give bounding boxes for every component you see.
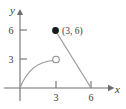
arc-curve <box>20 61 54 89</box>
x-tick-label-6: 6 <box>89 92 94 103</box>
point-coordinate-label: (3, 6) <box>62 26 83 37</box>
y-axis-arrow-icon <box>17 9 23 15</box>
y-tick-label-3: 3 <box>9 54 14 65</box>
x-tick-label-3: 3 <box>54 92 59 103</box>
y-tick-label-6: 6 <box>9 25 14 36</box>
closed-point-marker <box>52 27 59 34</box>
y-axis-label: y <box>9 4 15 16</box>
x-axis-label: x <box>114 83 120 95</box>
coordinate-plane: y x 6 3 3 6 (3, 6) <box>0 0 126 109</box>
line-segment <box>56 32 91 88</box>
x-axis-arrow-icon <box>108 85 115 91</box>
open-point-marker <box>53 56 60 63</box>
graph-figure: y x 6 3 3 6 (3, 6) <box>0 0 126 109</box>
